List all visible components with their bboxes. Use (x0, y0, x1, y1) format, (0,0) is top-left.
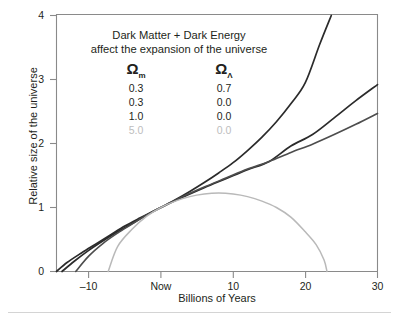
legend-omega-m-value-3: 5.0 (100, 124, 172, 136)
legend-row-0: 0.30.7 (100, 82, 260, 94)
legend-omega-m-value-2: 1.0 (100, 110, 172, 122)
x-tick-label-30: 30 (358, 280, 398, 292)
chart-figure: 0 1 2 3 4 –10 Now 10 20 30 Relative size… (0, 0, 399, 321)
legend-header-row: Ωm ΩΛ (100, 60, 260, 80)
legend-row-1: 0.30.0 (100, 96, 260, 108)
legend-omega-lambda-value-3: 0.0 (188, 124, 260, 136)
chart-annotation: Dark Matter + Dark Energy affect the exp… (74, 28, 284, 56)
y-axis-label: Relative size of the universe (27, 41, 39, 231)
bottom-divider (8, 312, 391, 313)
legend-row-3: 5.00.0 (100, 124, 260, 136)
omega-m-subscript: m (138, 71, 145, 80)
curve-series-2 (76, 113, 378, 271)
legend-omega-m-value-0: 0.3 (100, 82, 172, 94)
omega-m-symbol: Ω (126, 60, 138, 77)
legend-rows: 0.30.70.30.01.00.05.00.0 (100, 82, 260, 136)
legend-header-omega-lambda: ΩΛ (188, 60, 260, 80)
omega-lambda-symbol: Ω (215, 60, 227, 77)
y-tick-label-4: 4 (22, 9, 44, 21)
x-tick-label-10: 10 (213, 280, 253, 292)
legend-row-2: 1.00.0 (100, 110, 260, 122)
x-tick-label-20: 20 (286, 280, 326, 292)
x-axis-label: Billions of Years (56, 292, 378, 304)
x-tick-label-neg10: –10 (69, 280, 109, 292)
annotation-line-1: Dark Matter + Dark Energy (74, 28, 284, 42)
omega-lambda-subscript: Λ (227, 71, 232, 80)
legend-omega-lambda-value-2: 0.0 (188, 110, 260, 122)
y-tick-label-0: 0 (22, 265, 44, 277)
legend-omega-m-value-1: 0.3 (100, 96, 172, 108)
legend-header-omega-m: Ωm (100, 60, 172, 80)
curve-series-3 (108, 193, 327, 271)
x-tick-label-now: Now (141, 280, 181, 292)
annotation-line-2: affect the expansion of the universe (74, 42, 284, 56)
legend-omega-lambda-value-1: 0.0 (188, 96, 260, 108)
legend-omega-lambda-value-0: 0.7 (188, 82, 260, 94)
legend: Ωm ΩΛ 0.30.70.30.01.00.05.00.0 (100, 60, 260, 136)
